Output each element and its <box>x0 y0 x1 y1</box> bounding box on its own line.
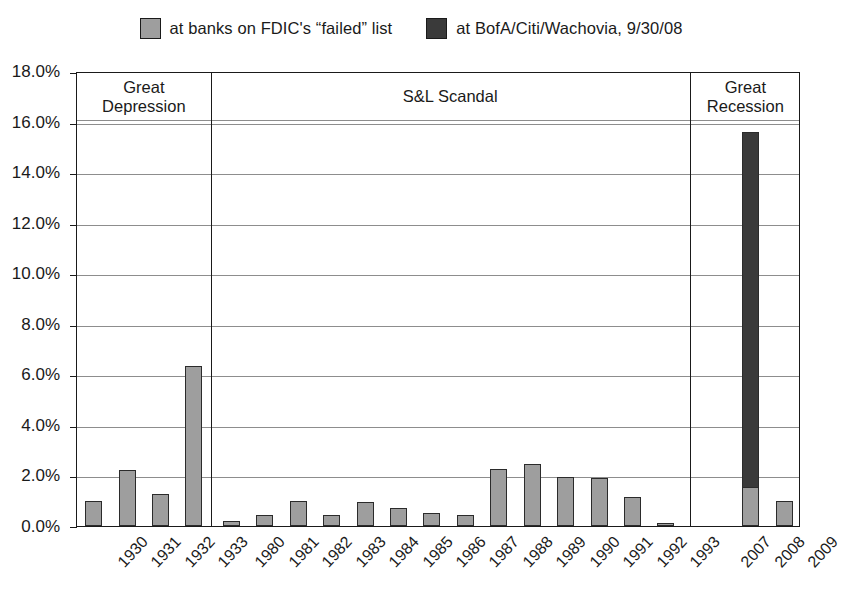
bar-segment-failed-banks[interactable] <box>776 501 793 526</box>
bar-segment-bofa-citi-wachovia[interactable] <box>742 132 759 487</box>
x-axis-tick-label: 2007 <box>738 533 775 571</box>
y-tick <box>70 376 77 377</box>
bar-segment-failed-banks[interactable] <box>119 470 136 526</box>
bar-segment-failed-banks[interactable] <box>85 501 102 526</box>
x-axis-tick-label: 1993 <box>686 533 723 571</box>
y-axis-tick-label: 8.0% <box>21 315 60 335</box>
bar-1980[interactable] <box>215 73 248 526</box>
y-axis-tick-label: 0.0% <box>21 517 60 537</box>
x-axis-tick-label: 2009 <box>805 533 842 571</box>
y-axis-tick-label: 10.0% <box>12 264 60 284</box>
bar-1988[interactable] <box>482 73 515 526</box>
legend-swatch-failed-banks <box>140 18 161 39</box>
bar-segment-failed-banks[interactable] <box>357 502 374 526</box>
bar-1991[interactable] <box>582 73 615 526</box>
bar-segment-failed-banks[interactable] <box>624 497 641 526</box>
bar-1933[interactable] <box>177 73 210 526</box>
y-tick <box>70 73 77 74</box>
bar-segment-failed-banks[interactable] <box>223 521 240 526</box>
bar-1986[interactable] <box>415 73 448 526</box>
x-axis-tick-label: 1982 <box>319 533 356 571</box>
bar-1985[interactable] <box>382 73 415 526</box>
bar-segment-failed-banks[interactable] <box>152 494 169 526</box>
bar-segment-failed-banks[interactable] <box>490 469 507 526</box>
bar-1982[interactable] <box>282 73 315 526</box>
y-tick <box>70 477 77 478</box>
y-tick <box>70 174 77 175</box>
x-axis-tick-label: 1930 <box>114 533 151 571</box>
x-axis-labels: 1930193119321933198019811982198319841985… <box>76 527 800 604</box>
bar-2009[interactable] <box>768 73 801 526</box>
x-axis-tick-label: 1985 <box>419 533 456 571</box>
y-axis-tick-label: 12.0% <box>12 214 60 234</box>
y-tick <box>70 427 77 428</box>
bar-segment-failed-banks[interactable] <box>290 501 307 526</box>
bar-1987[interactable] <box>449 73 482 526</box>
bar-1992[interactable] <box>616 73 649 526</box>
chart-legend: at banks on FDIC's “failed” list at BofA… <box>0 18 822 39</box>
bar-segment-failed-banks[interactable] <box>524 464 541 526</box>
bar-segment-failed-banks[interactable] <box>323 515 340 526</box>
y-axis-tick-label: 2.0% <box>21 466 60 486</box>
x-axis-tick-label: 1990 <box>586 533 623 571</box>
y-axis-tick-label: 14.0% <box>12 163 60 183</box>
x-axis-tick-label: 1992 <box>653 533 690 571</box>
bar-segment-failed-banks[interactable] <box>457 515 474 526</box>
y-tick <box>70 225 77 226</box>
y-tick <box>70 124 77 125</box>
y-tick <box>70 275 77 276</box>
bar-series <box>77 73 799 526</box>
legend-item-bofa-citi-wachovia: at BofA/Citi/Wachovia, 9/30/08 <box>426 18 682 39</box>
x-axis-tick-label: 2008 <box>771 533 808 571</box>
bar-1983[interactable] <box>315 73 348 526</box>
bar-1931[interactable] <box>110 73 143 526</box>
legend-item-failed-banks: at banks on FDIC's “failed” list <box>140 18 393 39</box>
bar-segment-failed-banks[interactable] <box>390 508 407 526</box>
x-axis-tick-label: 1987 <box>486 533 523 571</box>
x-axis-tick-label: 1988 <box>519 533 556 571</box>
x-axis-tick-label: 1989 <box>553 533 590 571</box>
bar-1993[interactable] <box>649 73 682 526</box>
y-axis-labels: 0.0%2.0%4.0%6.0%8.0%10.0%12.0%14.0%16.0%… <box>0 72 70 527</box>
legend-swatch-bofa-citi-wachovia <box>426 18 447 39</box>
bar-2008[interactable] <box>734 73 767 526</box>
bar-1990[interactable] <box>549 73 582 526</box>
y-axis-tick-label: 16.0% <box>12 113 60 133</box>
y-axis-tick-label: 6.0% <box>21 365 60 385</box>
bar-1930[interactable] <box>77 73 110 526</box>
y-axis-tick-label: 18.0% <box>12 62 60 82</box>
bar-segment-failed-banks[interactable] <box>423 513 440 526</box>
x-axis-tick-label: 1933 <box>214 533 251 571</box>
x-axis-tick-label: 1983 <box>352 533 389 571</box>
bar-segment-failed-banks[interactable] <box>185 366 202 527</box>
bar-2007[interactable] <box>701 73 734 526</box>
x-axis-tick-label: 1980 <box>252 533 289 571</box>
legend-label-failed-banks: at banks on FDIC's “failed” list <box>170 19 393 38</box>
legend-label-bofa-citi-wachovia: at BofA/Citi/Wachovia, 9/30/08 <box>456 19 682 38</box>
x-axis-tick-label: 1991 <box>619 533 656 571</box>
bar-1981[interactable] <box>248 73 281 526</box>
x-axis-tick-label: 1932 <box>181 533 218 571</box>
bar-1989[interactable] <box>516 73 549 526</box>
plot-area: GreatDepressionS&L ScandalGreatRecession <box>76 72 800 527</box>
bar-segment-failed-banks[interactable] <box>557 477 574 526</box>
x-axis-tick-label: 1984 <box>385 533 422 571</box>
x-axis-tick-label: 1981 <box>285 533 322 571</box>
bar-segment-failed-banks[interactable] <box>742 487 759 526</box>
bar-segment-failed-banks[interactable] <box>256 515 273 526</box>
bar-1984[interactable] <box>348 73 381 526</box>
x-axis-tick-label: 1986 <box>452 533 489 571</box>
x-axis-tick-label: 1931 <box>147 533 184 571</box>
bar-segment-failed-banks[interactable] <box>657 523 674 526</box>
y-axis-tick-label: 4.0% <box>21 416 60 436</box>
bar-segment-failed-banks[interactable] <box>591 478 608 526</box>
bar-1932[interactable] <box>144 73 177 526</box>
y-tick <box>70 326 77 327</box>
